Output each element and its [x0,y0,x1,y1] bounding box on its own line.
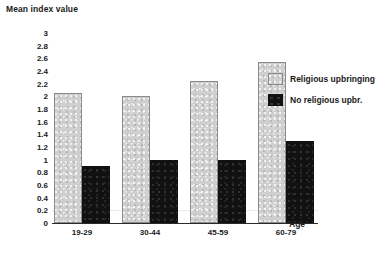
x-tick-19-29: 19-29 [47,228,117,237]
y-tick-0-6: 0.6 [37,181,48,190]
y-tick-0-2: 0.2 [37,206,48,215]
legend-swatch-religious-icon [268,73,283,85]
y-tick-2-8: 2.8 [37,41,48,50]
bar-religious-19-29[interactable] [54,93,82,223]
y-tick-2-4: 2.4 [37,67,48,76]
bar-nonreligious-60-79[interactable] [286,141,314,223]
y-tick-1: 1 [44,155,48,164]
x-tick-60-79: 60-79 [251,228,321,237]
bar-group-45-59 [190,33,246,223]
bar-nonreligious-45-59[interactable] [218,160,246,223]
bar-group-30-44 [122,33,178,223]
plot-area [52,33,318,223]
y-tick-3: 3 [44,29,48,38]
y-tick-1-6: 1.6 [37,117,48,126]
x-tick-30-44: 30-44 [115,228,185,237]
legend-label-religious: Religious upbringing [290,74,375,84]
y-tick-2-6: 2.6 [37,54,48,63]
bar-nonreligious-19-29[interactable] [82,166,110,223]
bar-religious-45-59[interactable] [190,81,218,224]
y-tick-0: 0 [44,219,48,228]
x-axis-title: Age [289,219,305,229]
x-tick-45-59: 45-59 [183,228,253,237]
legend-swatch-nonreligious-icon [268,94,283,106]
bar-religious-30-44[interactable] [122,96,150,223]
legend-item-nonreligious[interactable]: No religious upbr. [268,93,375,106]
legend-item-religious[interactable]: Religious upbringing [268,72,375,85]
y-tick-1-8: 1.8 [37,105,48,114]
y-tick-2: 2 [44,92,48,101]
y-tick-0-4: 0.4 [37,193,48,202]
x-axis-baseline [52,223,318,224]
bar-group-60-79 [258,33,314,223]
bar-group-19-29 [54,33,110,223]
y-tick-2-2: 2.2 [37,79,48,88]
legend-label-nonreligious: No religious upbr. [290,95,362,105]
bar-nonreligious-30-44[interactable] [150,160,178,223]
y-tick-1-4: 1.4 [37,130,48,139]
chart-legend: Religious upbringing No religious upbr. [268,72,375,114]
y-axis-tick-labels: 3 2.8 2.6 2.4 2.2 2 1.8 1.6 1.4 1.2 1 0.… [0,0,48,260]
y-tick-0-8: 0.8 [37,168,48,177]
y-tick-1-2: 1.2 [37,143,48,152]
bar-chart: Mean index value 3 2.8 2.6 2.4 2.2 2 1.8… [0,0,385,260]
